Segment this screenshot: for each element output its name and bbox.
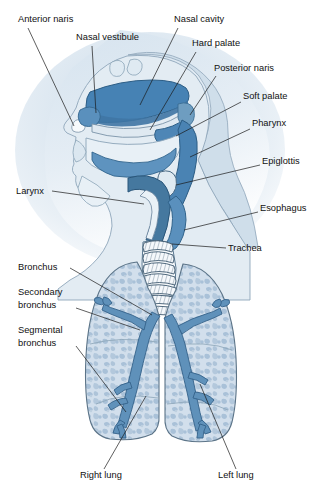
label-secondary-bronchus-line2: bronchus — [18, 300, 57, 310]
label-secondary-bronchus-line1: Secondary — [18, 287, 63, 297]
label-trachea: Trachea — [228, 243, 263, 253]
respiratory-system-figure: Anterior naris Nasal vestibule Nasal cav… — [0, 0, 326, 489]
label-hard-palate: Hard palate — [192, 38, 240, 48]
label-posterior-naris: Posterior naris — [214, 63, 274, 73]
label-epiglottis: Epiglottis — [262, 156, 300, 166]
label-right-lung: Right lung — [80, 470, 122, 480]
label-segmental-bronchus: Segmental bronchus — [18, 325, 65, 348]
nasal-vestibule-region — [78, 107, 100, 127]
label-segmental-bronchus-line2: bronchus — [18, 338, 57, 348]
label-anterior-naris: Anterior naris — [18, 14, 74, 24]
label-bronchus: Bronchus — [18, 262, 58, 272]
label-esophagus: Esophagus — [260, 203, 307, 213]
label-larynx: Larynx — [16, 186, 44, 196]
label-pharynx: Pharynx — [252, 118, 286, 128]
label-left-lung: Left lung — [218, 470, 254, 480]
label-segmental-bronchus-line1: Segmental — [18, 325, 62, 335]
label-soft-palate: Soft palate — [243, 91, 287, 101]
label-nasal-vestibule: Nasal vestibule — [76, 32, 139, 42]
label-nasal-cavity: Nasal cavity — [174, 14, 224, 24]
